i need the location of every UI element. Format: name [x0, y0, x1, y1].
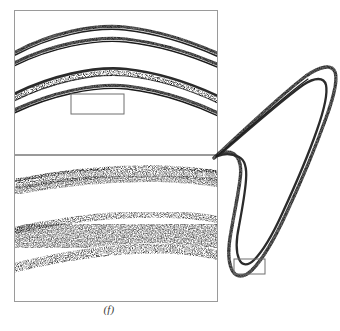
- panel-caption: (f): [0, 303, 218, 315]
- figure-canvas: [0, 0, 340, 331]
- figure-root: (f): [0, 0, 340, 331]
